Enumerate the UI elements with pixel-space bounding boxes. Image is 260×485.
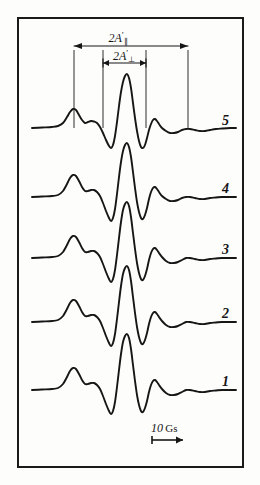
annotation-base: 2A xyxy=(108,31,121,45)
hyperfine-perpendicular-label: 2A′⊥ xyxy=(113,48,135,64)
scale-bar-arrow-group xyxy=(152,436,183,444)
trace-number-label-3: 3 xyxy=(222,242,229,258)
spectrum-trace-group xyxy=(32,74,236,414)
annotation-subscript: ⊥ xyxy=(128,55,135,64)
spectrum-trace-4 xyxy=(32,143,236,221)
spectra-plot-canvas xyxy=(0,0,260,485)
spectrum-trace-1 xyxy=(32,334,236,414)
trace-number-label-4: 4 xyxy=(222,181,229,197)
annotation-base: 2A xyxy=(113,49,126,63)
scale-bar-label: 10 Gs xyxy=(151,421,177,436)
scale-bar-unit: Gs xyxy=(163,422,177,434)
trace-number-label-1: 1 xyxy=(222,374,229,390)
trace-number-label-2: 2 xyxy=(222,306,229,322)
spectrum-trace-5 xyxy=(32,74,236,148)
annotation-subscript: ∥ xyxy=(124,37,128,46)
scale-bar-value: 10 xyxy=(151,421,163,435)
spectrum-trace-2 xyxy=(32,266,236,346)
trace-number-label-5: 5 xyxy=(222,113,229,129)
hyperfine-parallel-label: 2A′∥ xyxy=(108,30,127,46)
scale-bar-arrowhead xyxy=(176,437,183,444)
esr-spectra-figure: 2A′∥ 2A′⊥ 10 Gs 54321 xyxy=(0,0,260,485)
spectrum-trace-3 xyxy=(32,202,236,282)
